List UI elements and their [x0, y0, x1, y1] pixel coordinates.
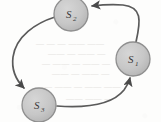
svg-text:—— — —— —: —— — —— —: [47, 49, 106, 58]
node-s2[interactable]: S 2: [54, 0, 88, 31]
node-s2-subscript: 2: [73, 15, 77, 23]
node-s3[interactable]: S 3: [22, 88, 56, 122]
svg-text:— —— — —— ——: — —— — —— ——: [43, 82, 121, 91]
svg-text:—— — —— —: —— — —— —: [51, 69, 110, 78]
node-s1-subscript: 1: [135, 60, 139, 68]
node-s1[interactable]: S 1: [116, 42, 150, 76]
svg-text:— — — —— ——: — — — —— ——: [35, 39, 105, 48]
node-s1-label: S: [128, 53, 134, 65]
diagram-canvas: — — — —— —— —— — —— — — —— — —— — —— — —…: [0, 0, 161, 122]
edge-s1-to-s2: [92, 5, 139, 42]
state-cycle-diagram: — — — —— —— —— — —— — — —— — —— — —— — —…: [0, 0, 161, 122]
node-s3-label: S: [34, 99, 40, 111]
node-s2-label: S: [66, 8, 72, 20]
svg-text:— —— — —— —: — —— — —— —: [41, 59, 111, 68]
node-s3-subscript: 3: [40, 106, 45, 114]
